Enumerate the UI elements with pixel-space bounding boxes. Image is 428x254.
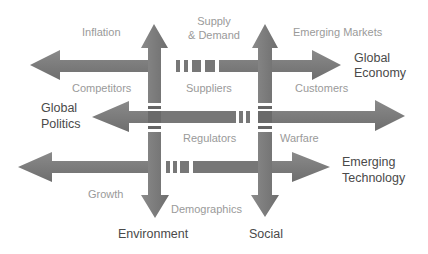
label-growth: Growth bbox=[88, 188, 123, 201]
heading-global-politics-line2: Politics bbox=[41, 117, 81, 132]
global-economy-arrow bbox=[30, 50, 341, 80]
label-emerging-markets: Emerging Markets bbox=[293, 26, 382, 39]
heading-global-economy-line1: Global bbox=[354, 51, 390, 66]
label-demand: & Demand bbox=[182, 29, 246, 42]
global-politics-arrow bbox=[92, 100, 405, 132]
emerging-technology-arrow bbox=[18, 152, 330, 182]
heading-social: Social bbox=[249, 227, 283, 242]
heading-environment: Environment bbox=[118, 227, 188, 242]
forces-diagram: Inflation Supply & Demand Emerging Marke… bbox=[0, 0, 428, 254]
label-competitors: Competitors bbox=[72, 82, 131, 95]
label-suppliers: Suppliers bbox=[186, 82, 232, 95]
label-supply: Supply bbox=[182, 15, 246, 28]
heading-emerging-technology-line2: Technology bbox=[342, 171, 405, 186]
label-warfare: Warfare bbox=[280, 132, 319, 145]
label-inflation: Inflation bbox=[82, 26, 121, 39]
label-demographics: Demographics bbox=[171, 203, 242, 216]
heading-global-economy-line2: Economy bbox=[354, 66, 406, 81]
heading-global-politics-line1: Global bbox=[41, 101, 77, 116]
label-regulators: Regulators bbox=[183, 132, 236, 145]
label-customers: Customers bbox=[295, 82, 348, 95]
heading-emerging-technology-line1: Emerging bbox=[342, 155, 396, 170]
